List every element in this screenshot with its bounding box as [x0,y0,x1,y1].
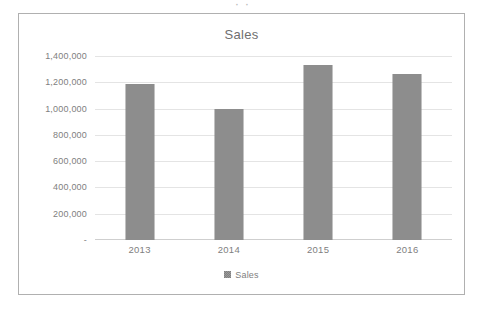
y-axis-tick-label: 1,000,000 [45,104,87,114]
bar-slot [363,56,452,240]
y-axis: -200,000400,000600,000800,0001,000,0001,… [19,56,93,240]
y-axis-tick-label: 400,000 [53,182,87,192]
bar-slot [95,56,184,240]
legend-item-sales[interactable]: Sales [224,270,259,280]
bar-slot [184,56,273,240]
x-axis-tick-label: 2016 [396,244,418,255]
page-text-fragment: · · [0,0,485,10]
legend-label: Sales [235,270,259,280]
y-axis-tick-label: 800,000 [53,130,87,140]
chart-container[interactable]: Sales -200,000400,000600,000800,0001,000… [18,13,465,295]
bar-slot [274,56,363,240]
y-axis-tick-label: 1,400,000 [45,51,87,61]
x-axis-tick-label: 2015 [307,244,329,255]
y-axis-tick-label: 200,000 [53,209,87,219]
legend-swatch-icon [224,271,231,278]
y-axis-tick-label: - [84,235,87,245]
chart-legend: Sales [19,270,464,281]
bar-2014[interactable] [214,109,243,240]
y-axis-tick-label: 600,000 [53,156,87,166]
plot-area: -200,000400,000600,000800,0001,000,0001,… [19,14,464,294]
bar-series-sales [95,56,452,240]
y-axis-tick-label: 1,200,000 [45,77,87,87]
bar-2016[interactable] [393,74,422,240]
bar-2015[interactable] [304,65,333,240]
x-axis-tick-label: 2014 [218,244,240,255]
x-axis-tick-label: 2013 [128,244,150,255]
bar-2013[interactable] [125,84,154,240]
x-axis: 2013201420152016 [95,244,452,262]
